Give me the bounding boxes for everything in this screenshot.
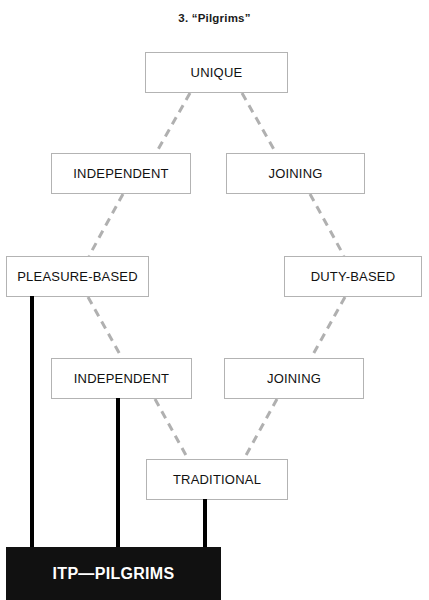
- solid-connector-independent-2-to-terminal: [116, 398, 120, 548]
- solid-connector-traditional-to-terminal: [203, 499, 207, 548]
- dashed-connector-unique-to-independent-1: [156, 93, 190, 153]
- dashed-connector-independent-1-to-pleasure: [89, 194, 123, 256]
- node-label: JOINING: [268, 166, 322, 181]
- node-label: UNIQUE: [191, 65, 243, 80]
- node-box-independent-1: INDEPENDENT: [51, 153, 191, 194]
- node-box-duty: DUTY-BASED: [284, 256, 422, 297]
- node-label: INDEPENDENT: [74, 371, 169, 386]
- node-label: DUTY-BASED: [311, 269, 396, 284]
- diagram-canvas: 3. “Pilgrims” UNIQUEINDEPENDENTJOININGPL…: [0, 0, 429, 600]
- node-box-traditional: TRADITIONAL: [146, 459, 288, 500]
- node-box-unique: UNIQUE: [145, 52, 288, 93]
- dashed-connector-joining-1-to-duty: [310, 194, 344, 256]
- node-box-joining-2: JOINING: [224, 358, 364, 399]
- node-box-pleasure: PLEASURE-BASED: [6, 256, 149, 297]
- terminal-node-itp-pilgrims: ITP—PILGRIMS: [6, 547, 221, 600]
- node-label: JOINING: [267, 371, 321, 386]
- dashed-connector-independent-2-to-traditional: [155, 399, 188, 459]
- solid-connector-pleasure-to-terminal: [30, 296, 34, 548]
- node-box-independent-2: INDEPENDENT: [51, 358, 192, 399]
- node-label: INDEPENDENT: [73, 166, 168, 181]
- dashed-connector-pleasure-to-independent-2: [88, 297, 122, 358]
- node-label: TRADITIONAL: [173, 472, 261, 487]
- dashed-connector-duty-to-joining-2: [311, 297, 345, 358]
- node-label: PLEASURE-BASED: [17, 269, 138, 284]
- node-box-joining-1: JOINING: [226, 153, 365, 194]
- dashed-connector-joining-2-to-traditional: [244, 399, 277, 459]
- dashed-connector-unique-to-joining-1: [242, 93, 276, 153]
